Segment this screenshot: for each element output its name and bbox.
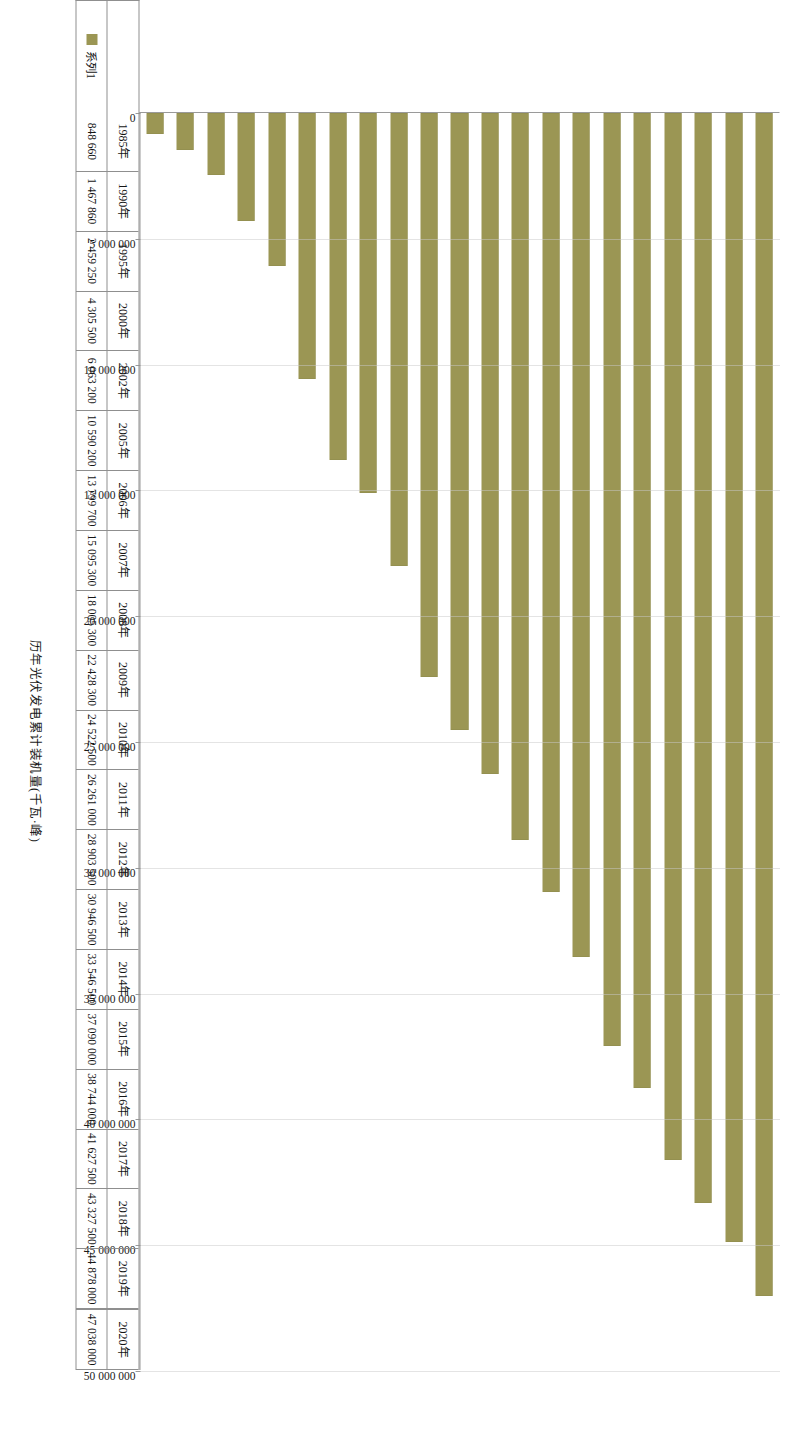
rotated-page-wrapper: 05 000 00010 000 00015 000 00020 000 000… [0,0,801,1434]
value-cell: 22 428 300 [75,651,107,710]
bar-chart-figure: 05 000 00010 000 00015 000 00020 000 000… [0,0,801,1434]
bar [390,113,407,566]
gridline [140,1119,779,1120]
category-label-cell: 2016年 [107,1070,139,1129]
category-label-cell: 2006年 [107,471,139,530]
value-cell: 18 005 300 [75,591,107,650]
value-cell: 4 305 500 [75,292,107,351]
value-cell: 15 095 300 [75,531,107,590]
value-cell: 10 590 200 [75,411,107,470]
value-cell: 2 459 250 [75,232,107,291]
gridline [140,1371,779,1372]
value-cell: 33 546 500 [75,950,107,1009]
table-column: 2000年4 305 500 [75,292,138,352]
bar [725,113,742,1242]
category-label-cell: 2018年 [107,1189,139,1248]
value-cell: 13 799 700 [75,471,107,530]
category-label-cell: 2007年 [107,531,139,590]
bar [176,113,193,150]
bar [511,113,528,840]
gridline [140,994,779,995]
legend: 系列1 [75,0,139,112]
bar [329,113,346,460]
bar [420,113,437,677]
value-cell: 47 038 000 [75,1310,107,1369]
bar [237,113,254,221]
gridline [140,490,779,491]
table-column: 1990年1 467 860 [75,172,138,232]
value-cell: 28 903 500 [75,830,107,889]
value-cell: 44 878 000 [75,1249,107,1308]
bar [207,113,224,175]
category-label-cell: 2017年 [107,1130,139,1189]
value-cell: 38 744 000 [75,1070,107,1129]
table-column: 1995年2 459 250 [75,232,138,292]
category-label-cell: 1990年 [107,172,139,231]
gridline [140,239,779,240]
legend-color-swatch [86,34,97,45]
plot-area [139,112,779,1370]
category-label-cell: 2002年 [107,351,139,410]
value-cell: 37 090 000 [75,1010,107,1069]
table-column: 2007年15 095 300 [75,531,138,591]
value-cell: 26 261 000 [75,770,107,829]
gridline [140,616,779,617]
bar [450,113,467,730]
category-value-table: 2020年47 038 0002019年44 878 0002018年43 32… [75,112,139,1370]
table-column: 2011年26 261 000 [75,770,138,830]
table-column: 2002年6 063 200 [75,351,138,411]
value-cell: 6 063 200 [75,351,107,410]
table-column: 2012年28 903 500 [75,830,138,890]
category-label-cell: 2008年 [107,591,139,650]
category-label-cell: 2000年 [107,292,139,351]
table-column: 2016年38 744 000 [75,1070,138,1130]
category-label-cell: 2019年 [107,1249,139,1308]
category-label-cell: 1985年 [107,112,139,171]
value-cell: 848 660 [75,112,107,171]
table-column: 2019年44 878 000 [75,1249,138,1309]
value-cell: 1 467 860 [75,172,107,231]
gridline [140,365,779,366]
category-label-cell: 2012年 [107,830,139,889]
gridline [140,742,779,743]
bar [268,113,285,266]
category-label-cell: 2005年 [107,411,139,470]
category-label-cell: 2013年 [107,890,139,949]
value-cell: 41 627 500 [75,1130,107,1189]
legend-label: 系列1 [83,51,99,79]
category-label-cell: 2010年 [107,711,139,770]
category-label-cell: 2020年 [107,1310,139,1369]
bar [146,113,163,134]
table-column: 1985年848 660 [75,112,138,172]
table-column: 2013年30 946 500 [75,890,138,950]
axis-tick [135,1371,140,1372]
table-column: 2020年47 038 000 [75,1309,138,1370]
category-label-cell: 2011年 [107,770,139,829]
value-cell: 24 522 500 [75,711,107,770]
table-column: 2017年41 627 500 [75,1130,138,1190]
bar [633,113,650,1088]
table-column: 2014年33 546 500 [75,950,138,1010]
category-label-cell: 1995年 [107,232,139,291]
gridline [140,868,779,869]
gridline [140,1245,779,1246]
table-column: 2018年43 327 500 [75,1189,138,1249]
table-column: 2010年24 522 500 [75,711,138,771]
category-label-cell: 2014年 [107,950,139,1009]
table-column: 2009年22 428 300 [75,651,138,711]
bar [359,113,376,493]
bar [694,113,711,1203]
value-cell: 43 327 500 [75,1189,107,1248]
legend-entry-series1: 系列1 [76,1,107,112]
category-label-cell: 2015年 [107,1010,139,1069]
table-column: 2008年18 005 300 [75,591,138,651]
legend-spacer [107,1,139,112]
bar [664,113,681,1160]
axis-title: 历年光伏发电累计装机量(千瓦·峰) [26,112,45,1370]
bar [481,113,498,774]
category-label-cell: 2009年 [107,651,139,710]
bar [542,113,559,892]
value-cell: 30 946 500 [75,890,107,949]
bar [603,113,620,1046]
table-column: 2006年13 799 700 [75,471,138,531]
